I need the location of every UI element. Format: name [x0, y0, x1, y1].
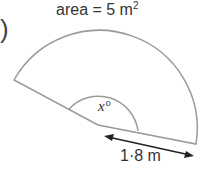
angle-label: x°: [98, 98, 111, 115]
sector-diagram: [0, 0, 206, 171]
arrowhead-right-icon: [184, 151, 194, 158]
sector-shape: [14, 30, 197, 144]
arrowhead-left-icon: [104, 134, 114, 141]
radius-label: 1·8 m: [120, 147, 161, 165]
